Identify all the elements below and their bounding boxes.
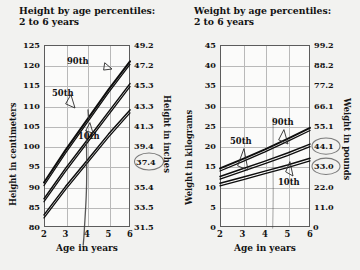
weight-ytick-right-22-0: 22.0: [314, 183, 334, 191]
height-yaxis-right-caption: Height in inches: [162, 95, 172, 173]
weight-xtick-5: 5: [285, 230, 291, 238]
weight-ytick-right-77-2: 77.2: [314, 81, 334, 89]
height-ytick-right-41-3: 41.3: [134, 122, 154, 130]
weight-ytick-left-45: 45: [190, 41, 216, 49]
weight-xtick-6: 6: [307, 230, 313, 238]
height-ytick-left-80: 80: [14, 223, 40, 231]
figure-root: Height by age percentiles: 2 to 6 years: [0, 0, 360, 270]
height-ytick-left-115: 115: [14, 81, 40, 89]
weight-ytick-left-40: 40: [190, 61, 216, 69]
height-ytick-left-125: 125: [14, 41, 40, 49]
height-ytick-right-33-5: 33.5: [134, 203, 154, 211]
weight-ytick-right-66-1: 66.1: [314, 102, 334, 110]
height-ytick-right-45-3: 45.3: [134, 81, 154, 89]
weight-yaxis-right-caption: Weight in pounds: [342, 98, 352, 180]
weight-ytick-right-88-2: 88.2: [314, 61, 334, 69]
height-ytick-right-35-4: 35.4: [134, 183, 154, 191]
height-ytick-right-49-2: 49.2: [134, 41, 154, 49]
weight-xtick-4: 4: [262, 230, 268, 238]
weight-ytick-right-33-0: 33.0: [314, 162, 334, 170]
weight-ytick-left-0: 0: [190, 223, 216, 231]
weight-ytick-left-30: 30: [190, 102, 216, 110]
height-xaxis-caption: Age in years: [56, 243, 118, 253]
height-chart-panel: Height by age percentiles: 2 to 6 years: [0, 0, 180, 270]
weight-xaxis-caption: Age in years: [234, 243, 296, 253]
height-xtick-2: 2: [41, 230, 47, 238]
height-xtick-3: 3: [63, 230, 69, 238]
height-yaxis-left-caption: Height in centimeters: [8, 103, 18, 206]
height-ytick-right-31-5: 31.5: [134, 223, 154, 231]
height-ytick-right-43-3: 43.3: [134, 102, 154, 110]
height-xtick-6: 6: [127, 230, 133, 238]
weight-ytick-right-11-0: 11.0: [314, 203, 334, 211]
height-xtick-4: 4: [84, 230, 90, 238]
height-ytick-right-37-4: 37.4: [136, 157, 156, 165]
weight-ytick-right-0: 0: [313, 223, 319, 231]
weight-xtick-2: 2: [217, 230, 223, 238]
height-xtick-5: 5: [106, 230, 112, 238]
weight-ytick-right-44-1: 44.1: [314, 142, 334, 150]
height-ytick-right-39-4: 39.4: [134, 142, 154, 150]
height-ytick-left-120: 120: [14, 61, 40, 69]
weight-chart-panel: Weight by age percentiles: 2 to 6 years: [180, 0, 360, 270]
weight-yaxis-left-caption: Weight in kilograms: [184, 110, 194, 205]
weight-ytick-right-55-1: 55.1: [314, 122, 334, 130]
weight-xtick-3: 3: [240, 230, 246, 238]
height-ytick-right-47-2: 47.2: [134, 61, 154, 69]
weight-ytick-left-35: 35: [190, 81, 216, 89]
weight-ytick-right-99-2: 99.2: [314, 41, 334, 49]
